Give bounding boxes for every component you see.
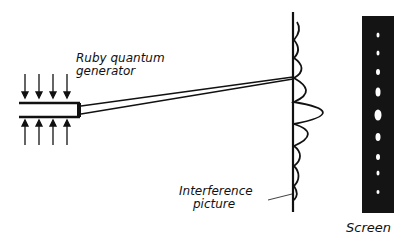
screen-label: Screen [346, 221, 391, 234]
pump-arrows-bottom-icon [22, 120, 70, 145]
interference-label: Interference picture [179, 185, 253, 211]
label-leader-line [268, 194, 292, 200]
ruby-rod-icon [19, 103, 81, 117]
pump-arrows-top-icon [22, 74, 70, 98]
generator-label: Ruby quantum generator [76, 52, 165, 78]
interference-curve [294, 22, 323, 200]
laser-beam [81, 77, 293, 114]
